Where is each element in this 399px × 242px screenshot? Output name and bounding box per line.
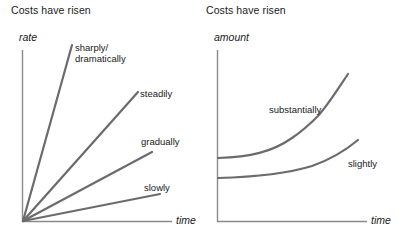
series-label-steadily: steadily: [140, 88, 172, 99]
series-label-sharply-line1: sharply/: [75, 42, 108, 53]
series-line-gradually: [23, 152, 152, 221]
chart-panel-left: Costs have risen rate sharply/ dramatica…: [0, 0, 199, 242]
series-label-sharply-line2: dramatically: [75, 53, 126, 64]
x-axis-label-right: time: [371, 214, 391, 226]
series-curve-substantially: [218, 74, 348, 158]
series-label-slightly: slightly: [348, 158, 377, 169]
series-label-sharply: sharply/ dramatically: [75, 42, 126, 64]
chart-plot-right: [200, 0, 399, 242]
chart-panel-right: Costs have risen amount substantially sl…: [200, 0, 399, 242]
series-curve-slightly: [218, 140, 358, 178]
x-axis-label-left: time: [176, 214, 196, 226]
series-label-substantially: substantially: [269, 104, 321, 115]
series-label-gradually: gradually: [141, 136, 180, 147]
figure-root: Costs have risen rate sharply/ dramatica…: [0, 0, 399, 242]
chart-plot-left: [0, 0, 199, 242]
series-label-slowly: slowly: [144, 182, 170, 193]
